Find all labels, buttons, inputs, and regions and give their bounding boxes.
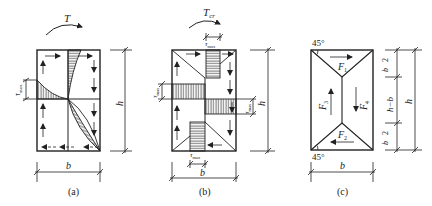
force-f1-label: F1 <box>337 61 347 73</box>
torque-arrow-icon <box>189 21 220 28</box>
svg-text:b: b <box>381 68 390 72</box>
torque-label: T <box>64 12 71 24</box>
width-label: b <box>200 167 205 178</box>
height-dimension <box>250 47 275 154</box>
caption-a: (a) <box>68 186 79 198</box>
height-label: h <box>114 101 125 106</box>
tau-max-label: τmax <box>13 84 23 96</box>
tau-max-label-left: τmax <box>151 87 160 98</box>
panel-a: T <box>13 12 132 198</box>
stress-block-bottom <box>190 122 205 151</box>
stress-block-left <box>172 84 205 99</box>
stress-distribution-diagonal <box>68 99 100 151</box>
caption-b: (b) <box>199 186 211 198</box>
segment-mid-label: h−b <box>385 96 395 112</box>
torque-cr-label: Tcr <box>203 6 215 20</box>
tau-max-label-bottom: τmax <box>190 151 201 160</box>
stress-block-top <box>206 50 220 78</box>
angle-bottom-label: 45° <box>312 152 325 162</box>
stress-distribution-left <box>37 80 68 99</box>
height-label: h <box>403 99 414 104</box>
torsion-stress-diagram: T <box>0 0 432 206</box>
angle-top-label: 45° <box>312 38 325 48</box>
force-f4-label: F4 <box>358 101 370 111</box>
svg-text:b: b <box>381 141 390 145</box>
width-label: b <box>340 160 345 171</box>
tau-max-label-top: τmax <box>205 40 216 49</box>
svg-text:2: 2 <box>381 58 390 62</box>
force-f3-label: F3 <box>317 101 329 111</box>
segment-top-label: b 2 <box>381 58 390 72</box>
height-label: h <box>256 101 267 106</box>
segment-bottom-label: b 2 <box>381 131 390 145</box>
svg-text:2: 2 <box>381 131 390 135</box>
panel-c: 45° F1 F2 F3 F4 45° <box>308 38 422 198</box>
tau-max-label-right: τmax <box>243 103 252 114</box>
tau-max-dimension <box>23 78 37 101</box>
tau-max-dimension-left <box>158 81 172 102</box>
stress-distribution-top <box>68 50 81 99</box>
force-f2-label: F2 <box>337 129 347 141</box>
width-label: b <box>66 160 71 171</box>
stress-block-right <box>205 99 236 114</box>
panel-b: Tcr τmax <box>151 6 275 198</box>
caption-c: (c) <box>337 186 348 198</box>
height-dimension <box>110 47 132 154</box>
torque-arrow-icon <box>46 25 82 35</box>
